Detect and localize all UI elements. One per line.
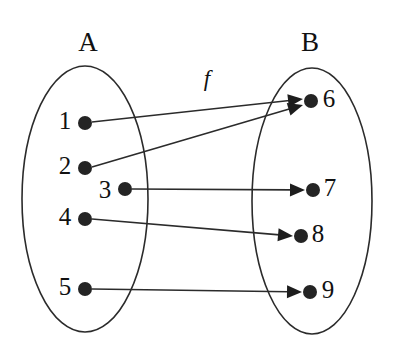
- set-a-nodes: 12345: [59, 107, 132, 300]
- function-name-label: f: [204, 66, 214, 91]
- set-b-element-8: 8: [294, 220, 324, 247]
- arrowhead-icon: [278, 228, 293, 241]
- element-dot: [118, 182, 132, 196]
- set-a-element-4: 4: [59, 203, 92, 230]
- set-a-element-1: 1: [59, 107, 92, 134]
- mapping-arrow: [92, 219, 293, 241]
- mapping-line: [92, 219, 280, 235]
- element-dot: [78, 116, 92, 130]
- mapping-arrow: [92, 103, 303, 167]
- diagram-canvas: A B f 12345 6789: [0, 0, 395, 353]
- element-label: 9: [322, 276, 335, 303]
- set-b-element-9: 9: [303, 276, 334, 303]
- arrowhead-icon: [290, 183, 305, 196]
- set-a-label: A: [78, 27, 98, 57]
- mapping-line: [92, 100, 290, 122]
- mapping-line: [92, 109, 290, 167]
- element-label: 5: [59, 273, 72, 300]
- element-label: 8: [312, 220, 325, 247]
- set-a-element-2: 2: [59, 152, 92, 179]
- arrowhead-icon: [287, 103, 303, 115]
- element-label: 3: [99, 176, 112, 203]
- element-dot: [306, 183, 320, 197]
- mapping-arrow: [132, 183, 305, 196]
- mapping-line: [132, 189, 292, 190]
- element-label: 1: [59, 107, 72, 134]
- element-dot: [304, 94, 318, 108]
- mapping-line: [92, 289, 289, 292]
- mapping-arrow: [92, 94, 303, 122]
- set-a-element-3: 3: [99, 176, 132, 203]
- set-b-label: B: [301, 27, 319, 57]
- element-label: 2: [59, 152, 72, 179]
- element-dot: [303, 285, 317, 299]
- element-label: 4: [59, 203, 72, 230]
- set-a-element-5: 5: [59, 273, 92, 300]
- element-dot: [78, 161, 92, 175]
- element-dot: [294, 229, 308, 243]
- arrowhead-icon: [287, 285, 302, 298]
- element-label: 6: [323, 85, 336, 112]
- element-dot: [78, 282, 92, 296]
- element-dot: [78, 212, 92, 226]
- mapping-arrows-layer: [92, 94, 305, 298]
- function-mapping-diagram: A B f 12345 6789: [0, 0, 395, 353]
- element-label: 7: [324, 174, 337, 201]
- set-b-element-6: 6: [304, 85, 335, 112]
- set-b-nodes: 6789: [294, 85, 336, 303]
- set-b-element-7: 7: [306, 174, 336, 201]
